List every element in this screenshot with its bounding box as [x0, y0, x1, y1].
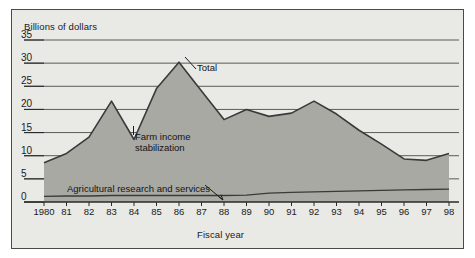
x-tick-label: 95 — [376, 206, 387, 217]
x-tick-label: 83 — [106, 206, 117, 217]
x-tick-label: 97 — [421, 206, 432, 217]
x-tick-label: 81 — [61, 206, 72, 217]
x-axis-title: Fiscal year — [197, 229, 244, 240]
x-tick-label: 87 — [196, 206, 207, 217]
farm-income-line-1: Farm income — [135, 131, 190, 142]
series-label-total: Total — [197, 62, 217, 73]
x-tick-label: 84 — [129, 206, 140, 217]
x-tick-label: 93 — [331, 206, 342, 217]
figure-frame — [11, 9, 464, 249]
x-tick-label: 89 — [241, 206, 252, 217]
x-tick-label: 86 — [174, 206, 185, 217]
chart-figure: Billions of dollars Fiscal year 05101520… — [0, 0, 475, 258]
x-tick-label: 85 — [151, 206, 162, 217]
x-tick-label: 94 — [354, 206, 365, 217]
y-tick-label: 25 — [21, 75, 41, 86]
farm-income-line-2: stabilization — [135, 142, 185, 153]
y-tick-label: 5 — [21, 167, 41, 178]
x-tick-label: 92 — [309, 206, 320, 217]
y-tick-label: 20 — [21, 98, 41, 109]
y-tick-label: 15 — [21, 121, 41, 132]
x-tick-label: 96 — [399, 206, 410, 217]
x-tick-label: 98 — [444, 206, 455, 217]
y-tick-label: 30 — [21, 52, 41, 63]
series-label-agricultural-research: Agricultural research and services — [67, 183, 210, 194]
x-tick-label: 91 — [286, 206, 297, 217]
y-tick-label: 10 — [21, 144, 41, 155]
x-tick-label: 82 — [84, 206, 95, 217]
y-tick-label: 35 — [21, 29, 41, 40]
x-tick-label: 88 — [219, 206, 230, 217]
y-tick-label: 0 — [21, 191, 41, 202]
x-tick-label: 1980 — [33, 206, 54, 217]
series-label-farm-income: Farm income stabilization — [135, 131, 190, 153]
x-tick-label: 90 — [264, 206, 275, 217]
